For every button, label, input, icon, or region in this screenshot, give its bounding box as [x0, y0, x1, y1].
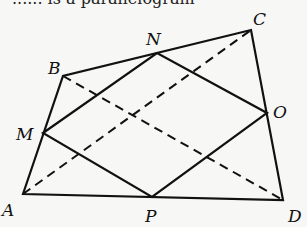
diagonal-ac [23, 30, 251, 194]
label-n: N [145, 29, 162, 49]
geometry-diagram: ...... is a parallelogram A B C D M N O … [0, 0, 307, 227]
parallelogram-mnop [43, 53, 267, 197]
label-c: C [253, 9, 266, 29]
label-m: M [15, 124, 34, 144]
diagram-canvas: ...... is a parallelogram A B C D M N O … [0, 0, 307, 227]
label-a: A [0, 200, 14, 220]
top-text-partial: ...... is a parallelogram [12, 0, 195, 8]
label-p: P [144, 206, 157, 226]
label-b: B [47, 58, 61, 78]
label-o: O [273, 102, 287, 122]
label-d: D [287, 206, 302, 226]
